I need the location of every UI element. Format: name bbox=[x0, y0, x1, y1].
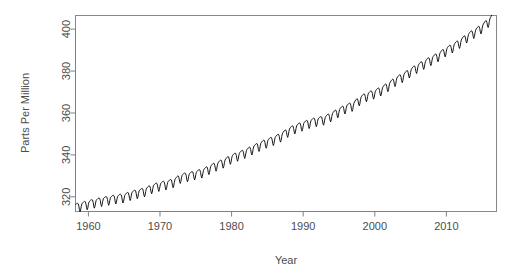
y-tick-label: 400 bbox=[61, 20, 73, 38]
y-tick-label: 360 bbox=[61, 104, 73, 122]
co2-line-chart: 320340360380400 196019701980199020002010… bbox=[0, 0, 514, 275]
chart-page: 320340360380400 196019701980199020002010… bbox=[0, 0, 514, 275]
x-tick-label: 1960 bbox=[76, 220, 100, 232]
co2-data-line bbox=[76, 15, 492, 211]
x-axis: 196019701980199020002010 bbox=[76, 212, 458, 232]
x-axis-title: Year bbox=[275, 254, 298, 266]
x-tick-label: 1980 bbox=[219, 220, 243, 232]
plot-area-border bbox=[76, 16, 497, 212]
x-axis-tick-labels: 196019701980199020002010 bbox=[76, 220, 458, 232]
y-tick-label: 380 bbox=[61, 62, 73, 80]
x-tick-label: 2000 bbox=[363, 220, 387, 232]
y-tick-label: 340 bbox=[61, 146, 73, 164]
y-axis-tick-labels: 320340360380400 bbox=[61, 20, 73, 206]
y-axis-title: Parts Per Million bbox=[19, 73, 31, 153]
x-tick-label: 1970 bbox=[148, 220, 172, 232]
y-tick-label: 320 bbox=[61, 188, 73, 206]
y-axis: 320340360380400 bbox=[61, 20, 76, 206]
x-tick-label: 2010 bbox=[434, 220, 458, 232]
x-axis-tick-marks bbox=[88, 212, 446, 217]
x-tick-label: 1990 bbox=[291, 220, 315, 232]
